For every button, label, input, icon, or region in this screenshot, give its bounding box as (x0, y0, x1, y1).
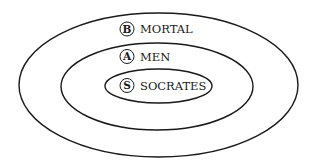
set-men-label: MEN (140, 50, 170, 64)
set-socrates-label-group: S SOCRATES (120, 79, 207, 93)
set-socrates-badge-letter: S (123, 79, 131, 91)
set-mortal-label-group: B MORTAL (120, 22, 193, 36)
euler-diagram: B MORTAL A MEN S SOCRATES (0, 0, 312, 164)
set-mortal-badge-letter: B (123, 23, 132, 35)
set-socrates-label: SOCRATES (140, 79, 207, 93)
set-mortal-label: MORTAL (140, 22, 193, 36)
set-men-badge-letter: A (122, 50, 132, 62)
set-men-label-group: A MEN (120, 50, 170, 64)
